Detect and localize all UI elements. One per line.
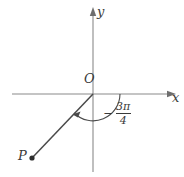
angle-measure-label: − 3π 4 (103, 101, 131, 126)
y-axis-label: y (97, 5, 104, 18)
angle-numerator: 3π (115, 101, 131, 113)
x-axis-label: x (172, 91, 179, 104)
point-p-marker (29, 155, 34, 160)
origin-label: O (84, 72, 95, 85)
point-p-label: P (18, 149, 27, 162)
angle-denominator: 4 (120, 114, 127, 126)
coordinate-plane-svg (0, 0, 184, 177)
angle-minus-sign: − (103, 107, 113, 120)
angle-fraction: 3π 4 (115, 101, 131, 126)
ray-o-to-p (32, 94, 93, 158)
angle-diagram-figure: y x O P − 3π 4 (0, 0, 184, 177)
y-axis-arrowhead (90, 7, 96, 16)
